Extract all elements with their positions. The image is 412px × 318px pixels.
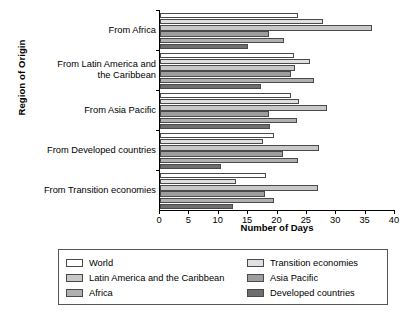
legend-item: Africa (66, 285, 246, 300)
bar (160, 158, 298, 163)
bar-group (160, 50, 394, 90)
bar (160, 78, 314, 83)
x-axis-tick (277, 210, 278, 214)
y-axis-tick (156, 50, 160, 51)
legend-label: Transition economies (270, 258, 358, 268)
x-axis-tick (247, 210, 248, 214)
bar (160, 151, 283, 156)
bar-group (160, 10, 394, 50)
bar (160, 124, 270, 129)
legend-column-right: Transition economiesAsia PacificDevelope… (247, 255, 387, 300)
legend-label: Developed countries (270, 288, 355, 298)
bar (160, 13, 298, 18)
legend-swatch (247, 289, 264, 297)
y-axis-tick (156, 170, 160, 171)
legend-swatch (66, 289, 83, 297)
legend-column-left: WorldLatin America and the CaribbeanAfri… (66, 255, 246, 300)
bar (160, 19, 323, 24)
bar-group (160, 90, 394, 130)
category-label: From Africa (6, 25, 156, 36)
legend-item: Asia Pacific (247, 270, 387, 285)
y-axis-tick (156, 130, 160, 131)
legend-label: Africa (89, 288, 113, 298)
bar (160, 99, 299, 104)
x-axis-title: Number of Days (159, 222, 395, 233)
x-axis-tick (188, 210, 189, 214)
x-axis-tick (218, 210, 219, 214)
x-axis-tick (159, 210, 160, 214)
legend-swatch (247, 259, 264, 267)
category-label-group: From AfricaFrom Latin America and the Ca… (2, 10, 156, 210)
bar (160, 84, 261, 89)
category-label: From Transition economies (6, 185, 156, 196)
bar (160, 53, 294, 58)
bar (160, 179, 236, 184)
legend-label: World (89, 258, 113, 268)
category-label: From Asia Pacific (6, 105, 156, 116)
chart-legend: WorldLatin America and the CaribbeanAfri… (58, 249, 388, 305)
bar (160, 191, 265, 196)
bar (160, 198, 274, 203)
legend-swatch (247, 274, 264, 282)
bar (160, 173, 266, 178)
bar-group (160, 170, 394, 210)
x-axis-tick (365, 210, 366, 214)
plot-area: 0510152025303540 (159, 10, 394, 210)
bar (160, 38, 284, 43)
bar (160, 31, 269, 36)
bar (160, 25, 372, 30)
bar (160, 145, 319, 150)
category-label: From Developed countries (6, 145, 156, 156)
bar (160, 185, 318, 190)
bar (160, 204, 233, 209)
legend-label: Latin America and the Caribbean (89, 273, 224, 283)
bar (160, 164, 221, 169)
bar-group (160, 130, 394, 170)
bar (160, 118, 297, 123)
legend-item: Transition economies (247, 255, 387, 270)
legend-item: Latin America and the Caribbean (66, 270, 246, 285)
bar (160, 133, 274, 138)
bar (160, 139, 263, 144)
y-axis-tick (156, 10, 160, 11)
bar-chart: Region of Origin From AfricaFrom Latin A… (0, 0, 412, 318)
x-axis-tick (306, 210, 307, 214)
x-axis-tick (335, 210, 336, 214)
legend-label: Asia Pacific (270, 273, 318, 283)
bar (160, 93, 291, 98)
x-axis-tick (394, 210, 395, 214)
bar (160, 59, 310, 64)
legend-swatch (66, 259, 83, 267)
bar (160, 44, 248, 49)
legend-item: Developed countries (247, 285, 387, 300)
bar (160, 111, 269, 116)
category-label: From Latin America and the Caribbean (6, 59, 156, 81)
legend-swatch (66, 274, 83, 282)
bar (160, 65, 295, 70)
bar (160, 71, 291, 76)
y-axis-tick (156, 90, 160, 91)
legend-item: World (66, 255, 246, 270)
bar (160, 105, 327, 110)
